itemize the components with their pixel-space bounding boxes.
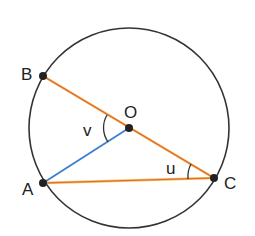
angle-arc-u xyxy=(188,164,191,179)
angle-label-v: v xyxy=(83,121,92,140)
point-b xyxy=(39,72,47,80)
label-b: B xyxy=(21,65,32,84)
point-a xyxy=(39,179,47,187)
circle-geometry-diagram: B O C A v u xyxy=(0,0,255,236)
angle-label-u: u xyxy=(166,159,175,178)
point-o xyxy=(125,124,133,132)
label-a: A xyxy=(22,180,34,199)
label-c: C xyxy=(224,174,236,193)
label-o: O xyxy=(124,103,137,122)
angle-arc-v xyxy=(104,115,108,142)
point-c xyxy=(210,174,218,182)
